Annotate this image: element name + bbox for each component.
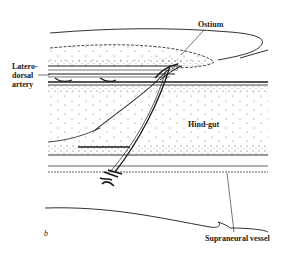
- hind-gut-label: Hind-gut: [188, 120, 219, 129]
- laterodorsal-label-line1: Latero-: [12, 62, 52, 71]
- laterodorsal-artery-label: Latero- dorsal artery: [12, 62, 52, 89]
- anatomical-diagram: [0, 0, 287, 255]
- supraneural-vessel-label: Supraneural vessel: [205, 234, 270, 243]
- supraneural-vessel: [48, 166, 268, 172]
- panel-letter: b: [44, 229, 48, 238]
- hind-gut-dorsal-wall: [48, 82, 268, 92]
- ostium-label: Ostium: [198, 20, 223, 29]
- laterodorsal-label-line2: dorsal: [12, 71, 52, 80]
- laterodorsal-label-line3: artery: [12, 80, 52, 89]
- ventral-wall: [45, 208, 268, 232]
- laterodorsal-artery: [48, 60, 183, 81]
